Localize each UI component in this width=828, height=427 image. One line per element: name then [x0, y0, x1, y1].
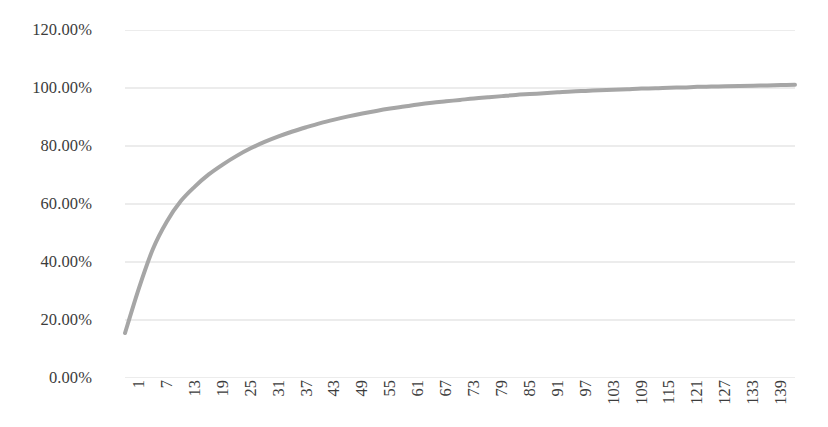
x-axis-tick-label: 13: [187, 380, 204, 397]
y-axis-tick-label: 20.00%: [0, 312, 92, 329]
x-axis-tick-label: 67: [438, 380, 455, 397]
x-axis: 1713192531374349556167737985919710310911…: [125, 378, 795, 427]
x-axis-tick-label: 79: [494, 380, 511, 397]
y-axis-tick-label: 80.00%: [0, 138, 92, 155]
x-axis-tick-label: 55: [382, 380, 399, 397]
y-axis-tick-label: 60.00%: [0, 196, 92, 213]
y-axis-tick-label: 120.00%: [0, 22, 92, 39]
x-axis-tick-label: 25: [243, 380, 260, 397]
x-axis-tick-label: 43: [326, 380, 343, 397]
x-axis-tick-label: 7: [159, 380, 176, 388]
x-axis-tick-label: 37: [299, 380, 316, 397]
y-axis: 0.00%20.00%40.00%60.00%80.00%100.00%120.…: [0, 0, 112, 427]
x-axis-tick-label: 97: [578, 380, 595, 397]
x-axis-tick-label: 121: [689, 380, 706, 405]
chart-container: 0.00%20.00%40.00%60.00%80.00%100.00%120.…: [0, 0, 828, 427]
series-path-cumulative-percentage: [125, 85, 795, 333]
x-axis-tick-label: 91: [550, 380, 567, 397]
x-axis-tick-label: 109: [634, 380, 651, 405]
data-series-line: [125, 30, 795, 378]
x-axis-tick-label: 133: [745, 380, 762, 405]
y-axis-tick-label: 40.00%: [0, 254, 92, 271]
x-axis-tick-label: 85: [522, 380, 539, 397]
x-axis-tick-label: 61: [410, 380, 427, 397]
x-axis-tick-label: 73: [466, 380, 483, 397]
x-axis-tick-label: 127: [717, 380, 734, 405]
y-axis-tick-label: 0.00%: [0, 370, 92, 387]
x-axis-tick-label: 19: [215, 380, 232, 397]
x-axis-tick-label: 115: [661, 380, 678, 404]
x-axis-tick-label: 103: [606, 380, 623, 405]
y-axis-tick-label: 100.00%: [0, 80, 92, 97]
x-axis-tick-label: 1: [131, 380, 148, 388]
x-axis-tick-label: 139: [773, 380, 790, 405]
x-axis-tick-label: 31: [271, 380, 288, 397]
x-axis-tick-label: 49: [354, 380, 371, 397]
plot-area: [125, 30, 795, 378]
